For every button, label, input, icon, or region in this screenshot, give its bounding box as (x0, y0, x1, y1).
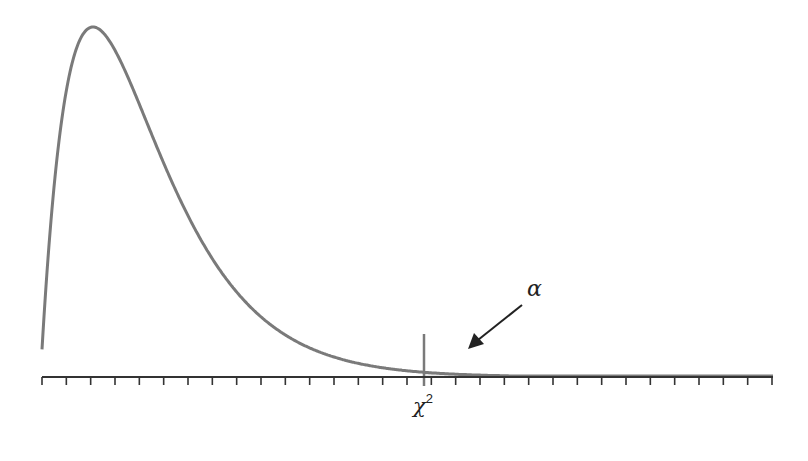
density-curve (42, 27, 773, 376)
chi-symbol: χ (413, 394, 426, 418)
chi-superscript: 2 (426, 391, 433, 406)
critical-value-label: χ2 (413, 393, 433, 418)
alpha-label: α (527, 276, 542, 301)
axis-ticks (42, 377, 772, 385)
chi-square-diagram (0, 0, 808, 461)
alpha-arrow-icon (468, 305, 522, 349)
